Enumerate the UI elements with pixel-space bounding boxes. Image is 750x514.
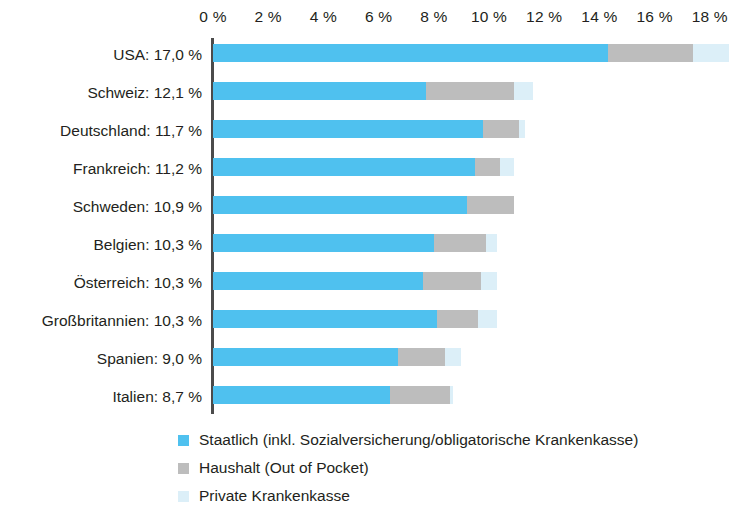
category-label: Belgien: 10,3 % xyxy=(93,226,202,264)
legend-item: Haushalt (Out of Pocket) xyxy=(0,454,750,482)
bar-segment-haushalt xyxy=(467,196,514,214)
chart-legend: Staatlich (inkl. Sozialversicherung/obli… xyxy=(0,426,750,510)
stacked-bar xyxy=(213,234,497,252)
category-label: Schweiz: 12,1 % xyxy=(87,74,202,112)
chart-row: Schweden: 10,9 % xyxy=(0,188,750,226)
bar-segment-staatlich xyxy=(213,44,608,62)
chart-row: Italien: 8,7 % xyxy=(0,378,750,416)
bar-segment-privat xyxy=(450,386,453,404)
bar-segment-privat xyxy=(519,120,525,138)
bar-segment-staatlich xyxy=(213,310,437,328)
legend-label: Haushalt (Out of Pocket) xyxy=(199,454,369,482)
chart-row: Spanien: 9,0 % xyxy=(0,340,750,378)
x-tick-label: 14 % xyxy=(581,8,617,26)
bar-segment-privat xyxy=(481,272,498,290)
stacked-bar xyxy=(213,348,461,366)
square-swatch-icon xyxy=(178,435,189,446)
chart-row: Großbritannien: 10,3 % xyxy=(0,302,750,340)
bar-segment-haushalt xyxy=(483,120,519,138)
x-tick-label: 8 % xyxy=(420,8,447,26)
bar-segment-privat xyxy=(445,348,462,366)
legend-item: Private Krankenkasse xyxy=(0,482,750,510)
bar-segment-haushalt xyxy=(390,386,451,404)
stacked-bar xyxy=(213,120,525,138)
bar-segment-haushalt xyxy=(423,272,481,290)
bar-segment-privat xyxy=(478,310,497,328)
bar-segment-staatlich xyxy=(213,196,467,214)
bar-segment-staatlich xyxy=(213,158,475,176)
bar-segment-haushalt xyxy=(398,348,445,366)
chart-row: Österreich: 10,3 % xyxy=(0,264,750,302)
x-tick-label: 16 % xyxy=(637,8,673,26)
legend-item: Staatlich (inkl. Sozialversicherung/obli… xyxy=(0,426,750,454)
category-label: Frankreich: 11,2 % xyxy=(73,150,202,188)
stacked-bar xyxy=(213,82,533,100)
stacked-bar-chart: 0 %2 %4 %6 %8 %10 %12 %14 %16 %18 % USA:… xyxy=(0,0,750,514)
plot-area: USA: 17,0 %Schweiz: 12,1 %Deutschland: 1… xyxy=(0,36,750,416)
x-tick-label: 18 % xyxy=(692,8,728,26)
stacked-bar xyxy=(213,272,497,290)
category-label: Deutschland: 11,7 % xyxy=(60,112,202,150)
square-swatch-icon xyxy=(178,491,189,502)
category-label: Italien: 8,7 % xyxy=(112,378,202,416)
bar-segment-staatlich xyxy=(213,272,423,290)
stacked-bar xyxy=(213,158,514,176)
category-label: Österreich: 10,3 % xyxy=(74,264,202,302)
stacked-bar xyxy=(213,44,729,62)
category-label: Schweden: 10,9 % xyxy=(73,188,202,226)
stacked-bar xyxy=(213,310,497,328)
bar-segment-staatlich xyxy=(213,82,426,100)
bar-segment-privat xyxy=(500,158,514,176)
x-tick-label: 4 % xyxy=(310,8,337,26)
bar-segment-haushalt xyxy=(437,310,478,328)
bar-segment-privat xyxy=(693,44,729,62)
bar-segment-privat xyxy=(514,82,533,100)
bar-segment-haushalt xyxy=(608,44,694,62)
chart-row: Belgien: 10,3 % xyxy=(0,226,750,264)
bar-segment-privat xyxy=(486,234,497,252)
x-tick-label: 6 % xyxy=(365,8,392,26)
legend-label: Staatlich (inkl. Sozialversicherung/obli… xyxy=(199,426,638,454)
chart-row: Deutschland: 11,7 % xyxy=(0,112,750,150)
bar-segment-staatlich xyxy=(213,386,390,404)
bar-segment-haushalt xyxy=(434,234,486,252)
chart-row: USA: 17,0 % xyxy=(0,36,750,74)
bar-segment-haushalt xyxy=(426,82,514,100)
legend-label: Private Krankenkasse xyxy=(199,482,350,510)
stacked-bar xyxy=(213,386,453,404)
bar-segment-staatlich xyxy=(213,348,398,366)
x-tick-label: 10 % xyxy=(471,8,507,26)
x-tick-label: 12 % xyxy=(526,8,562,26)
x-tick-label: 0 % xyxy=(199,8,226,26)
x-axis-tick-labels: 0 %2 %4 %6 %8 %10 %12 %14 %16 %18 % xyxy=(0,8,750,32)
category-label: Spanien: 9,0 % xyxy=(97,340,202,378)
square-swatch-icon xyxy=(178,463,189,474)
chart-row: Frankreich: 11,2 % xyxy=(0,150,750,188)
bar-segment-staatlich xyxy=(213,120,483,138)
chart-row: Schweiz: 12,1 % xyxy=(0,74,750,112)
x-tick-label: 2 % xyxy=(255,8,282,26)
bar-segment-haushalt xyxy=(475,158,500,176)
category-label: Großbritannien: 10,3 % xyxy=(42,302,202,340)
stacked-bar xyxy=(213,196,514,214)
category-label: USA: 17,0 % xyxy=(113,36,202,74)
bar-segment-staatlich xyxy=(213,234,434,252)
